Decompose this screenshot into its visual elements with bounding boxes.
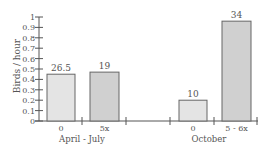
x-group-label: April - July xyxy=(58,134,105,144)
y-tick-label: 0.4 xyxy=(22,75,35,84)
x-category-label: 0 xyxy=(190,124,195,133)
bar-value-label: 34 xyxy=(231,10,243,20)
bar-chart: 00.10.20.30.40.50.60.70.80.91 05xApril -… xyxy=(0,0,271,152)
bar-value-label: 19 xyxy=(99,61,111,71)
bar xyxy=(179,100,207,121)
bars: 26.5191034 xyxy=(47,10,251,121)
bar xyxy=(90,72,119,121)
y-tick-label: 0.9 xyxy=(22,23,35,32)
bar xyxy=(222,21,251,121)
bar-value-label: 26.5 xyxy=(51,63,71,73)
y-tick-label: 0.7 xyxy=(22,44,35,53)
y-axis-label: Birds / hour xyxy=(12,38,22,93)
y-tick-label: 0.1 xyxy=(22,107,35,116)
x-category-label: 0 xyxy=(58,124,63,133)
y-tick-label: 1 xyxy=(30,13,35,22)
x-group-label: October xyxy=(192,134,228,144)
y-tick-label: 0.3 xyxy=(22,86,35,95)
y-axis: 00.10.20.30.40.50.60.70.80.91 xyxy=(22,13,43,126)
y-tick-label: 0 xyxy=(30,117,35,126)
bar-value-label: 10 xyxy=(187,89,199,99)
y-tick-label: 0.5 xyxy=(22,65,35,74)
x-category-label: 5 - 6x xyxy=(225,124,248,133)
y-tick-label: 0.6 xyxy=(22,55,35,64)
bar xyxy=(47,74,75,121)
y-tick-label: 0.2 xyxy=(22,96,35,105)
x-category-label: 5x xyxy=(100,124,110,133)
y-tick-label: 0.8 xyxy=(22,34,35,43)
